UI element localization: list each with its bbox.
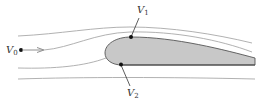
point-v1 xyxy=(129,35,133,39)
leader-v2 xyxy=(121,65,130,86)
label-v1: V1 xyxy=(137,4,149,17)
airfoil-flow-diagram: V0 V1 V2 xyxy=(0,0,261,109)
airfoil xyxy=(105,37,255,65)
label-v0: V0 xyxy=(6,44,18,57)
streamline-lower xyxy=(18,58,106,68)
label-v2: V2 xyxy=(127,87,139,100)
streamline-bottom xyxy=(18,78,255,80)
point-v2 xyxy=(119,63,123,67)
